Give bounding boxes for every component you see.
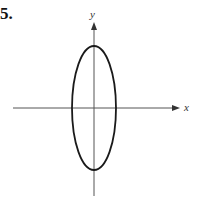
x-axis-label: x (184, 101, 189, 113)
x-axis-arrow-icon (172, 105, 180, 111)
y-axis-arrow-icon (91, 22, 97, 30)
figure-panel: 5. y x (0, 0, 197, 199)
y-axis-label: y (90, 8, 95, 20)
coordinate-plot (0, 0, 197, 199)
